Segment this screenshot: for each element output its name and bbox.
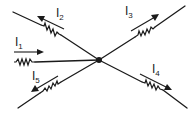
label-i5: I5 bbox=[32, 69, 40, 85]
wire-i2-outer bbox=[13, 12, 41, 25]
resistor-i5-icon bbox=[40, 81, 61, 93]
branch-i4: I4 bbox=[99, 60, 187, 108]
wire-i2-inner bbox=[61, 35, 99, 60]
wire-i1 bbox=[35, 60, 99, 62]
arrowhead-i3-icon bbox=[151, 14, 159, 21]
label-i4: I4 bbox=[152, 62, 160, 78]
wire-i4-outer bbox=[163, 90, 187, 108]
branch-i1: I1 bbox=[14, 35, 99, 65]
branch-i3: I3 bbox=[99, 4, 185, 60]
wire-i5-inner bbox=[61, 60, 99, 82]
resistor-i3-icon bbox=[135, 27, 155, 37]
resistor-i1-icon bbox=[14, 59, 35, 65]
resistor-i2-icon bbox=[41, 23, 61, 36]
arrowhead-i1-icon bbox=[37, 49, 44, 55]
label-i3: I3 bbox=[125, 4, 133, 20]
wire-i3-outer bbox=[155, 6, 185, 27]
kcl-node-diagram: I1 I2 I3 I4 I5 bbox=[0, 0, 195, 117]
wire-i5-outer bbox=[18, 93, 40, 108]
wire-i4-inner bbox=[99, 60, 142, 82]
label-i1: I1 bbox=[15, 35, 23, 51]
current-arrow-i3 bbox=[131, 17, 155, 31]
resistor-i4-icon bbox=[142, 80, 163, 90]
junction-node-icon bbox=[96, 57, 102, 63]
current-arrow-i4 bbox=[140, 74, 168, 88]
wire-i3-inner bbox=[99, 37, 135, 60]
label-i2: I2 bbox=[56, 6, 64, 22]
branch-i5: I5 bbox=[18, 60, 99, 108]
